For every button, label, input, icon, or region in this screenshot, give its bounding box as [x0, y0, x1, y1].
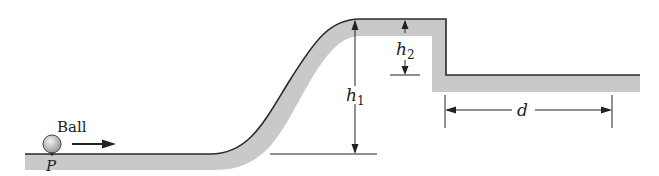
diagram-canvas: Ball P h1 h2 d	[0, 0, 659, 176]
ball-label: Ball	[57, 118, 87, 136]
h1-label: h1	[346, 85, 365, 108]
h2-label: h2	[396, 39, 415, 62]
velocity-arrow-icon	[72, 140, 116, 149]
point-p-marker	[50, 152, 53, 155]
d-label: d	[517, 100, 528, 120]
track-shading	[25, 19, 640, 170]
d-dimension	[445, 95, 612, 128]
point-p-label: P	[45, 157, 57, 175]
ball	[43, 135, 61, 153]
